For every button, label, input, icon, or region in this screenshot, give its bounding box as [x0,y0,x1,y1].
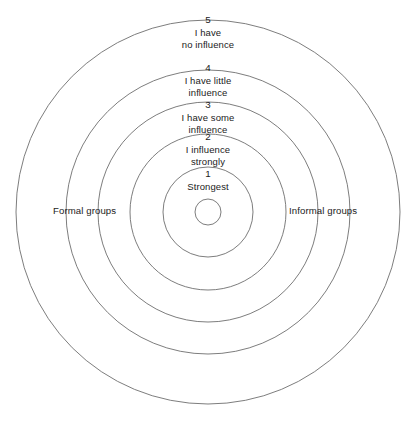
ring-text-5: I have no influence [129,27,287,50]
ring-number-1: 1 [140,168,276,180]
ring-number-4: 4 [129,62,287,74]
ring-circle-center [195,199,221,225]
ring-text-4-line-2: influence [129,87,287,99]
ring-text-3-line-1: I have some [129,112,287,124]
ring-number-3: 3 [129,99,287,111]
ring-text-4-line-1: I have little [129,75,287,87]
ring-label-2: 2 I influence strongly [129,131,287,167]
ring-text-4: I have little influence [129,75,287,98]
concentric-circles-diagram: 5 I have no influence 4 I have little in… [0,0,418,422]
ring-text-1-line-1: Strongest [140,181,276,193]
ring-label-4: 4 I have little influence [129,62,287,98]
ring-text-1: Strongest [140,181,276,193]
ring-label-5: 5 I have no influence [129,14,287,50]
ring-number-5: 5 [129,14,287,26]
ring-text-2-line-2: strongly [129,156,287,168]
ring-text-5-line-2: no influence [129,39,287,51]
ring-text-5-line-1: I have [129,27,287,39]
ring-label-1: 1 Strongest [140,168,276,193]
label-informal-groups: Informal groups [289,205,357,216]
ring-text-2-line-1: I influence [129,144,287,156]
ring-label-3: 3 I have some influence [129,99,287,135]
ring-number-2: 2 [129,131,287,143]
label-formal-groups: Formal groups [53,205,116,216]
ring-text-2: I influence strongly [129,144,287,167]
